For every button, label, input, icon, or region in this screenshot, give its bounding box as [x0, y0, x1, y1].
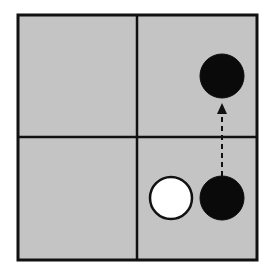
- black-stone-bottom-right: [200, 176, 244, 220]
- cell-top-left: [18, 15, 137, 137]
- cell-bottom-left: [18, 137, 137, 260]
- board-diagram: [0, 0, 272, 272]
- black-stone-top-right: [200, 54, 244, 98]
- white-stone-bottom-right: [150, 177, 192, 219]
- diagram-canvas: [0, 0, 272, 272]
